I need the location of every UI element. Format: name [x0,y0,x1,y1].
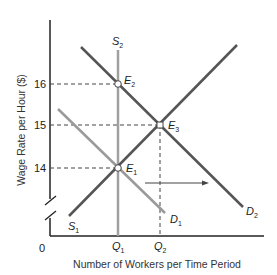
e1-label: E1 [126,162,137,176]
e3-point [157,122,163,128]
y-tick-15: 15 [34,119,46,131]
y-axis-title: Wage Rate per Hour ($) [15,74,27,186]
s2-label: S2 [112,35,123,49]
curves [58,45,243,236]
arrow-head-icon [202,181,209,186]
e3-label: E3 [168,119,179,133]
labor-market-chart: S2 S1 D1 D2 E2 E3 E1 16 15 14 0 Q1 Q2 Nu… [0,0,277,275]
x-axis-title: Number of Workers per Time Period [73,258,241,270]
dashed-guides [50,84,160,236]
y-tick-14: 14 [34,162,46,174]
e1-point [115,165,122,172]
shift-arrow [145,181,209,186]
e2-label: E2 [124,74,135,88]
s1-label: S1 [68,220,79,234]
y-tick-16: 16 [34,78,46,90]
e2-point [115,81,122,88]
x-tick-q2: Q2 [154,240,167,254]
d1-label: D1 [170,213,182,227]
x-tick-q1: Q1 [112,240,125,254]
x-tick-origin: 0 [39,242,45,254]
s1-curve [69,45,237,216]
d2-label: D2 [246,205,258,219]
